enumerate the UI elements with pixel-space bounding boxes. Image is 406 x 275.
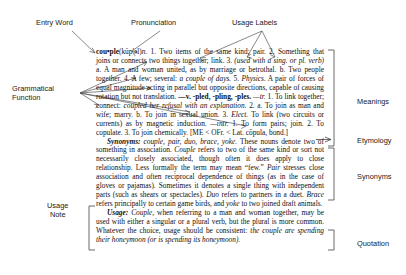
synonyms-term-duo: Duo xyxy=(206,190,219,199)
synonyms-term-yoke: yoke xyxy=(226,199,239,208)
leader-entry-word xyxy=(72,31,95,53)
entry-headword: cou•ple xyxy=(96,47,119,56)
bracket-usage-note xyxy=(89,206,95,250)
callout-synonyms: Synonyms xyxy=(357,172,392,181)
bracket-quotation xyxy=(328,230,334,250)
usage-note-term-couple: Couple, xyxy=(128,208,154,217)
arrowhead-entry-word xyxy=(90,48,96,53)
entry-example-coupled-refusal: coupled her refusal with an explanation. xyxy=(124,101,247,110)
entry-transitive-label: —tr. xyxy=(251,92,265,101)
callout-quotation: Quotation xyxy=(357,239,389,248)
usage-note-quotation-4: ). xyxy=(236,235,240,244)
entry-inflections: —v. -pled, -pling, -ples. xyxy=(178,92,251,101)
synonyms-body-5: refers principally to certain game birds… xyxy=(96,199,226,208)
entry-pronunciation: (kŭp′əl) xyxy=(119,47,142,56)
dictionary-anatomy-diagram: Entry Word Pronunciation Usage Labels Gr… xyxy=(0,0,406,275)
usage-note-quotation-2: (or xyxy=(146,235,159,244)
callout-meanings: Meanings xyxy=(357,97,389,106)
synonyms-body-6: to two joined draft animals. xyxy=(240,199,323,208)
callout-etymology: Etymology xyxy=(357,136,392,145)
entry-etymology: [ME < OFr. < Lat. cōpula, bond.] xyxy=(188,128,288,137)
callout-entry-word: Entry Word xyxy=(36,18,73,27)
callout-pronunciation: Pronunciation xyxy=(131,18,176,27)
callout-grammatical-function: Grammatical Function xyxy=(12,84,54,103)
dictionary-entry-body: cou•ple(kŭp′əl)n. 1. Two items of the sa… xyxy=(96,48,324,245)
entry-usage-label-physics: Physics. xyxy=(241,74,265,83)
entry-usage-label-verb-agreement: (used with a sing. or pl. verb) xyxy=(234,56,324,65)
entry-intransitive-label: —intr. xyxy=(207,119,229,128)
bracket-synonyms xyxy=(328,148,334,200)
bracket-etymology xyxy=(325,137,331,142)
bracket-meanings xyxy=(328,50,334,146)
entry-senses-paragraph: cou•ple(kŭp′əl)n. 1. Two items of the sa… xyxy=(96,48,324,138)
entry-senses-num-5: 5. xyxy=(231,74,241,83)
entry-usage-note-paragraph: Usage: Couple, when referring to a man a… xyxy=(96,209,324,245)
usage-note-quotation-3: is spending its honeymoon xyxy=(158,235,236,244)
synonyms-term-couple: Couple xyxy=(174,145,195,154)
synonyms-term-brace: Brace xyxy=(306,190,324,199)
entry-example-couple-of-days: a couple of days. xyxy=(180,74,232,83)
callout-usage-note: Usage Note xyxy=(47,201,68,220)
callout-usage-labels: Usage Labels xyxy=(232,18,277,27)
entry-usage-label-elect: Elect. xyxy=(231,110,248,119)
synonyms-heading: Synonyms: xyxy=(107,137,140,146)
synonyms-term-pair: Pair xyxy=(267,163,280,172)
usage-note-heading: Usage: xyxy=(107,208,128,217)
synonyms-list: couple, pair, duo, brace, yoke. xyxy=(140,137,237,146)
synonyms-body-4: refers to partners in a duet. xyxy=(219,190,307,199)
entry-synonyms-paragraph: Synonyms: couple, pair, duo, brace, yoke… xyxy=(96,138,324,210)
